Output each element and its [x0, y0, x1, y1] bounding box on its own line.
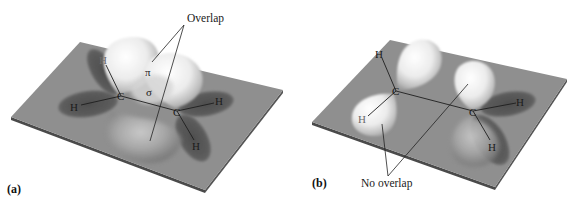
- sigma-bond-label: σ: [146, 86, 152, 98]
- atom-h-upper-left-a: H: [99, 54, 107, 66]
- atom-c2-a: C: [173, 106, 180, 118]
- pi-bond-label: π: [145, 66, 151, 78]
- panel-a: H C H C H H π σ Overlap (a): [7, 12, 283, 196]
- overlap-callout: Overlap: [187, 12, 224, 25]
- no-overlap-callout: No overlap: [361, 177, 413, 190]
- panel-b: H C H C H H No overlap (b): [312, 40, 567, 190]
- orbital-overlap-figure: H C H C H H π σ Overlap (a): [0, 0, 575, 202]
- panel-label-b: (b): [312, 176, 327, 190]
- panel-label-a: (a): [7, 182, 21, 196]
- atom-h-right-b: H: [516, 96, 524, 108]
- atom-h-left-a: H: [70, 101, 78, 113]
- atom-c1-a: C: [117, 90, 124, 102]
- atom-c2-b: C: [469, 106, 476, 118]
- atom-h-lower-left-b: H: [358, 113, 366, 125]
- atom-h-lower-right-a: H: [192, 140, 200, 152]
- atom-h-right-a: H: [215, 95, 223, 107]
- atom-c1-b: C: [392, 85, 399, 97]
- atom-h-top-b: H: [375, 48, 383, 60]
- atom-h-lower-right-b: H: [488, 141, 496, 153]
